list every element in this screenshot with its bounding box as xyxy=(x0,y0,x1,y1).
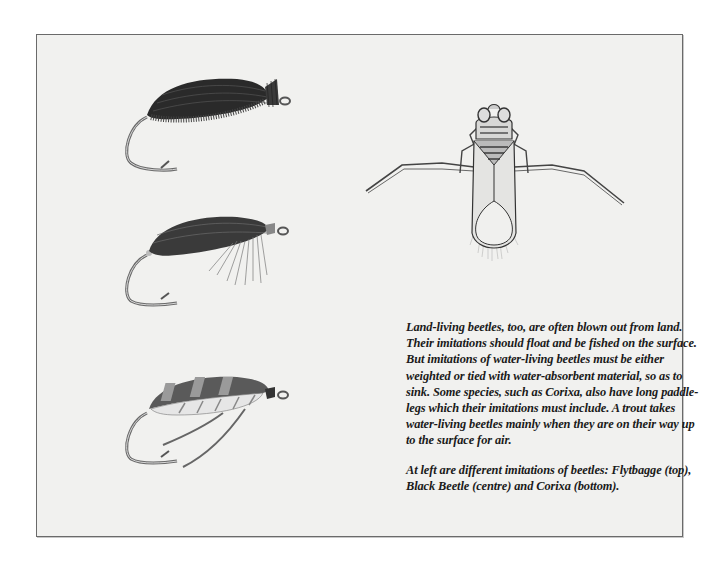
flytbagge-fly-illustration xyxy=(117,65,297,175)
text-block: Land-living beetles, too, are often blow… xyxy=(406,319,706,507)
black-beetle-fly-illustration xyxy=(117,185,297,315)
body-paragraph: Land-living beetles, too, are often blow… xyxy=(406,319,706,449)
caption-paragraph: At left are different imitations of beet… xyxy=(406,462,706,494)
corixa-fly-illustration xyxy=(117,355,297,475)
water-beetle-illustration xyxy=(362,93,632,273)
book-page: Land-living beetles, too, are often blow… xyxy=(36,34,683,537)
